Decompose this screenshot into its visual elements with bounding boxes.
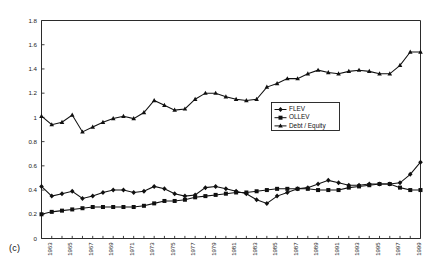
y-tick-label: 0.2: [28, 210, 37, 217]
data-point-marker: [152, 98, 157, 102]
data-point-marker: [162, 186, 167, 191]
x-tick-label: 1979: [211, 242, 217, 256]
x-tick-label: 1987: [293, 242, 299, 256]
data-point-marker: [152, 201, 156, 205]
data-point-marker: [172, 191, 177, 196]
data-point-marker: [316, 188, 320, 192]
data-point-marker: [224, 192, 228, 196]
data-point-marker: [357, 184, 361, 188]
plot-frame: [42, 21, 421, 239]
chart-svg: 00.20.40.60.811.21.41.61.8 1963196519671…: [0, 0, 435, 275]
data-point-marker: [131, 190, 136, 195]
line-chart: 00.20.40.60.811.21.41.61.8 1963196519671…: [0, 0, 435, 275]
x-tick-label: 1997: [395, 242, 401, 256]
x-tick-label: 1985: [272, 242, 278, 256]
data-point-marker: [419, 188, 423, 192]
series-ollev: [40, 182, 423, 216]
data-point-marker: [162, 199, 166, 203]
y-tick-label: 0: [34, 235, 38, 242]
x-tick-label: 1983: [252, 242, 258, 256]
data-point-marker: [91, 205, 95, 209]
y-tick-label: 1.8: [28, 17, 37, 24]
data-point-marker: [60, 209, 64, 213]
data-point-marker: [183, 198, 187, 202]
data-point-marker: [50, 210, 54, 214]
data-point-marker: [101, 190, 106, 195]
data-point-marker: [316, 182, 321, 187]
data-point-marker: [279, 116, 283, 120]
data-point-marker: [254, 197, 259, 202]
x-axis-tick-labels: 1963196519671969197119731975197719791981…: [47, 242, 422, 256]
series-path: [42, 162, 421, 203]
y-axis-tick-labels: 00.20.40.60.811.21.41.61.8: [28, 17, 37, 242]
data-point-marker: [306, 187, 310, 191]
x-tick-label: 1965: [67, 242, 73, 256]
data-point-marker: [70, 207, 74, 211]
data-point-marker: [347, 186, 351, 190]
data-point-marker: [265, 188, 269, 192]
series-flev: [39, 160, 423, 206]
x-tick-label: 1975: [170, 242, 176, 256]
y-tick-label: 1.2: [28, 89, 37, 96]
data-point-marker: [90, 194, 95, 199]
data-point-marker: [60, 191, 65, 196]
data-point-marker: [39, 114, 44, 118]
data-point-marker: [132, 205, 136, 209]
legend-label: Debt / Equity: [289, 122, 326, 130]
data-point-marker: [285, 187, 289, 191]
y-tick-label: 0.6: [28, 162, 37, 169]
data-point-marker: [316, 68, 321, 72]
data-point-marker: [142, 204, 146, 208]
data-point-marker: [203, 194, 207, 198]
x-tick-label: 1967: [88, 242, 94, 256]
x-tick-label: 1977: [190, 242, 196, 256]
data-point-marker: [326, 188, 330, 192]
series-path: [42, 52, 421, 132]
x-tick-label: 1971: [129, 242, 135, 256]
data-point-marker: [214, 193, 218, 197]
series-debt-equity: [39, 49, 423, 133]
data-point-marker: [142, 189, 147, 194]
y-tick-label: 0.4: [28, 186, 37, 193]
y-tick-label: 1.6: [28, 41, 37, 48]
chart-legend: FLEVOLLEVDebt / Equity: [272, 103, 340, 131]
data-point-marker: [40, 212, 44, 216]
data-point-marker: [336, 180, 341, 185]
data-point-marker: [70, 112, 75, 116]
x-tick-label: 1981: [231, 242, 237, 256]
data-point-marker: [398, 186, 402, 190]
data-point-marker: [101, 205, 105, 209]
data-point-marker: [121, 188, 126, 193]
data-point-marker: [224, 186, 229, 191]
x-tick-label: 1963: [47, 242, 53, 256]
x-tick-label: 1991: [334, 242, 340, 256]
series-path: [42, 184, 421, 214]
data-point-marker: [121, 114, 126, 118]
x-tick-label: 1999: [416, 242, 422, 256]
data-point-marker: [326, 178, 331, 183]
data-point-marker: [111, 188, 116, 193]
data-point-marker: [244, 190, 248, 194]
data-point-marker: [173, 199, 177, 203]
y-tick-label: 0.8: [28, 138, 37, 145]
data-point-marker: [296, 187, 300, 191]
data-point-marker: [408, 188, 412, 192]
data-point-marker: [60, 120, 65, 124]
data-point-marker: [357, 68, 362, 72]
data-point-marker: [255, 189, 259, 193]
y-tick-label: 1: [34, 114, 38, 121]
legend-label: FLEV: [289, 105, 306, 112]
y-tick-label: 1.4: [28, 65, 37, 72]
x-tick-label: 1973: [149, 242, 155, 256]
series-group: [39, 49, 423, 216]
x-tick-label: 1993: [354, 242, 360, 256]
data-point-marker: [193, 195, 197, 199]
x-tick-label: 1969: [108, 242, 114, 256]
data-point-marker: [388, 182, 392, 186]
chart-screenshot: (c) 00.20.40.60.811.21.41.61.8 196319651…: [0, 0, 435, 275]
data-point-marker: [337, 188, 341, 192]
legend-label: OLLEV: [289, 113, 310, 120]
data-point-marker: [275, 187, 279, 191]
x-tick-label: 1995: [375, 242, 381, 256]
x-tick-label: 1989: [313, 242, 319, 256]
